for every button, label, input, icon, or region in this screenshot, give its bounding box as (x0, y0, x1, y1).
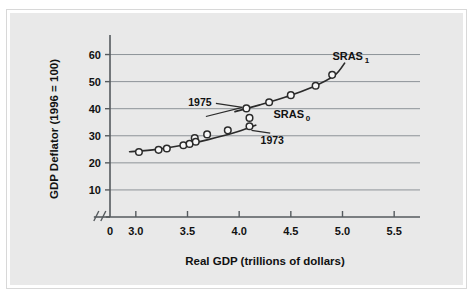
data-point-marker (204, 131, 211, 138)
data-point-marker (246, 123, 253, 130)
x-tick-label: 4.0 (232, 225, 247, 237)
axis-break-slash (101, 211, 106, 221)
data-point-marker (225, 127, 232, 134)
x-tick-label: 5.5 (387, 225, 402, 237)
figure-frame: 102030405060 03.03.54.04.55.05.5 1975197… (6, 9, 467, 289)
y-tick-label: 10 (89, 184, 101, 196)
data-point-marker (192, 138, 199, 145)
data-point-marker (246, 115, 253, 122)
x-tick-label: 4.5 (283, 225, 298, 237)
series-label-SRAS_0: SRAS (273, 108, 304, 120)
grid-lines (110, 55, 420, 190)
series-label-SRAS_1: SRAS (332, 50, 363, 62)
axis-break-mark (94, 211, 106, 221)
data-point-marker (312, 82, 319, 89)
data-point-marker (164, 145, 171, 152)
y-axis-ticks: 102030405060 (89, 49, 110, 196)
x-tick-label: 3.0 (128, 225, 143, 237)
series-label-subscript: 1 (365, 56, 370, 65)
data-point-marker (288, 92, 295, 99)
data-point-marker (329, 72, 336, 79)
y-tick-label: 60 (89, 49, 101, 61)
y-tick-label: 20 (89, 157, 101, 169)
data-point-marker (136, 149, 143, 156)
x-tick-label: 0 (107, 225, 113, 237)
data-point-marker (266, 99, 273, 106)
scatter-chart: 102030405060 03.03.54.04.55.05.5 1975197… (10, 13, 463, 285)
x-tick-label: 3.5 (180, 225, 195, 237)
annotation-leader (216, 103, 243, 107)
data-point-marker (243, 105, 250, 112)
y-axis-title: GDP Deflator (1996 = 100) (48, 59, 60, 199)
x-axis-ticks: 03.03.54.04.55.05.5 (107, 211, 402, 237)
series-labels: SRAS0SRAS1 (273, 50, 369, 122)
annotation-label: 1973 (261, 134, 285, 146)
axis-break-slash (94, 211, 99, 221)
plot-panel: 102030405060 03.03.54.04.55.05.5 1975197… (10, 13, 463, 285)
axis-lines (94, 35, 420, 221)
y-tick-label: 30 (89, 130, 101, 142)
y-tick-label: 40 (89, 103, 101, 115)
annotation-label: 1975 (188, 96, 212, 108)
series-curves (130, 63, 345, 152)
x-tick-label: 5.0 (335, 225, 350, 237)
data-point-marker (155, 147, 162, 154)
figure-root: 102030405060 03.03.54.04.55.05.5 1975197… (0, 0, 473, 298)
annotation-leader (252, 130, 271, 133)
series-label-subscript: 0 (306, 114, 311, 123)
y-tick-label: 50 (89, 76, 101, 88)
series-curve-SRAS_1 (235, 63, 345, 111)
x-axis-title: Real GDP (trillions of dollars) (185, 255, 345, 267)
